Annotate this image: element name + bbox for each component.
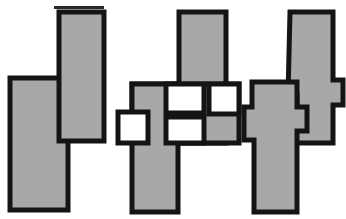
square-hole-middle-bottom xyxy=(166,117,204,143)
shapes-illustration xyxy=(0,0,346,219)
front-tabbed-piece xyxy=(244,82,307,212)
square-hole-right xyxy=(209,84,239,114)
square-hole-middle-top xyxy=(166,84,204,113)
right-vertical-bar xyxy=(59,12,104,141)
square-hole-left xyxy=(118,112,148,143)
caption-underline xyxy=(54,6,104,9)
figure-canvas xyxy=(0,0,346,219)
